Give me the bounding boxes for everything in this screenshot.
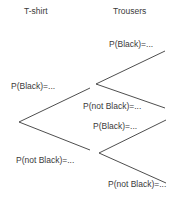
upper-trousers-black-branch	[96, 51, 165, 84]
tshirt-not-black-branch	[19, 122, 90, 150]
trousers-header: Trousers	[113, 7, 146, 16]
tshirt-header: T-shirt	[24, 7, 48, 16]
upper-trousers-black-label: P(Black)=...	[109, 40, 153, 49]
tshirt-black-branch	[19, 88, 90, 122]
upper-trousers-not-black-label: P(not Black)=...	[83, 102, 141, 111]
lower-trousers-not-black-label: P(not Black)=...	[108, 180, 166, 189]
tshirt-not-black-label: P(not Black)=...	[16, 156, 74, 165]
tshirt-black-label: P(Black)=...	[11, 82, 55, 91]
lower-trousers-black-label: P(Black)=...	[93, 122, 137, 131]
